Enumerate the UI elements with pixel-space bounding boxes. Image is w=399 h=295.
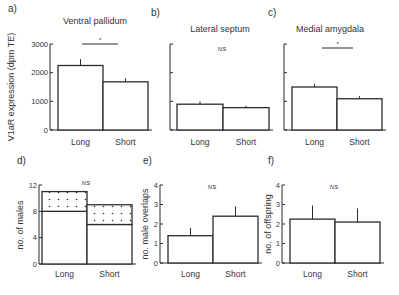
y-tick-label: 0 — [276, 259, 280, 268]
bar-short — [103, 82, 148, 130]
panel-label: b) — [151, 7, 160, 18]
y-tick-label: 4 — [154, 181, 158, 190]
x-category-label: Long — [303, 269, 322, 279]
y-axis-label: no. of males — [15, 200, 25, 250]
panel-label: d) — [17, 155, 26, 166]
x-category-label: Short — [225, 269, 246, 279]
panel-c: c)Medial amygdalaLongShort* — [268, 7, 386, 147]
y-axis-label: no. of offspring — [263, 194, 273, 253]
bar-segment-plain — [42, 211, 87, 264]
y-tick-label: 4 — [33, 233, 37, 242]
panel-label: c) — [268, 7, 276, 18]
significance-marker: * — [99, 37, 102, 43]
y-tick-label: 3 — [276, 200, 280, 209]
bar-segment-dotted — [87, 205, 132, 225]
x-category-label: Short — [349, 137, 370, 147]
y-tick-label: 0 — [33, 260, 37, 269]
panel-e: e)no. male overlaps01234LongShortNS — [140, 155, 262, 279]
significance-marker: NS — [218, 46, 226, 52]
bar-short — [223, 108, 269, 130]
bar-short — [337, 99, 382, 130]
bar-long — [168, 236, 213, 263]
x-category-label: Long — [71, 137, 90, 147]
x-category-label: Short — [236, 137, 257, 147]
panel-label: f) — [268, 155, 274, 166]
x-category-label: Long — [181, 269, 200, 279]
y-tick-label: 3000 — [31, 40, 48, 49]
y-tick-label: 0 — [44, 126, 48, 135]
y-tick-label: 3 — [154, 200, 158, 209]
panel-title: Medial amygdala — [296, 24, 364, 34]
y-tick-label: 0 — [154, 259, 158, 268]
x-category-label: Short — [99, 269, 120, 279]
y-tick-label: 1000 — [31, 97, 48, 106]
y-tick-label: 12 — [29, 181, 37, 190]
panel-label: a) — [8, 3, 17, 14]
y-tick-label: 8 — [33, 207, 37, 216]
y-tick-label: 4 — [276, 181, 280, 190]
x-category-label: Short — [347, 269, 368, 279]
panel-label: e) — [143, 155, 152, 166]
significance-marker: * — [336, 41, 339, 47]
x-category-label: Long — [305, 137, 324, 147]
significance-marker: NS — [208, 184, 216, 190]
panel-title: Ventral pallidum — [63, 16, 127, 26]
y-tick-label: 1 — [154, 239, 158, 248]
bar-short — [335, 222, 380, 263]
figure: a)Ventral pallidumV1aR expression (dpm T… — [0, 0, 399, 295]
x-category-label: Long — [55, 269, 74, 279]
bar-long — [177, 104, 223, 130]
bar-segment-plain — [87, 225, 132, 265]
panel-b: b)Lateral septumLongShortNS — [151, 7, 273, 147]
bar-short — [213, 216, 258, 263]
y-tick-label: 2000 — [31, 68, 48, 77]
y-tick-label: 2 — [276, 220, 280, 229]
y-tick-label: 2 — [154, 220, 158, 229]
significance-marker: NS — [330, 184, 338, 190]
x-category-label: Short — [115, 137, 136, 147]
y-tick-label: 1 — [276, 239, 280, 248]
panel-a: a)Ventral pallidumV1aR expression (dpm T… — [6, 3, 152, 147]
bar-long — [58, 66, 103, 131]
x-category-label: Long — [191, 137, 210, 147]
y-axis-label: V1aR expression (dpm TE) — [6, 33, 16, 141]
bar-long — [292, 87, 337, 130]
panel-d: d)no. of males04812LongShortNS — [15, 155, 136, 279]
bar-segment-dotted — [42, 192, 87, 212]
panel-f: f)no. of offspring01234LongShortNS — [263, 155, 384, 279]
bar-long — [290, 219, 335, 263]
panel-title: Lateral septum — [190, 24, 250, 34]
significance-marker: NS — [82, 180, 90, 186]
y-axis-label: no. male overlaps — [140, 188, 150, 260]
